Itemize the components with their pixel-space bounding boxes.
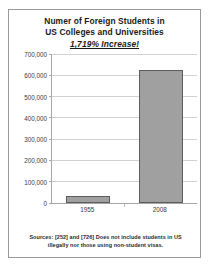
gridline: [52, 54, 197, 55]
y-axis-tick-label: 600,000: [24, 72, 47, 79]
y-axis-tick-label: 300,000: [24, 136, 47, 143]
chart-figure: Numer of Foreign Students in US Colleges…: [0, 0, 209, 272]
footnote-line-2: illegally nor those using non-student vi…: [15, 241, 196, 249]
y-axis-tick-label: 500,000: [24, 93, 47, 100]
bar-2008: [139, 70, 183, 203]
chart-panel: Numer of Foreign Students in US Colleges…: [8, 9, 201, 258]
y-axis-tickmark: [49, 75, 52, 76]
chart-title-line-2: US Colleges and Universities: [9, 27, 200, 38]
chart-subtitle-increase: 1,719% Increase!: [9, 38, 200, 50]
x-axis-tick-labels: 19552008: [51, 206, 197, 218]
footnote-line-1: Sources: [252] and [726] Does not includ…: [15, 233, 196, 241]
chart-title-line-1: Numer of Foreign Students in: [9, 16, 200, 27]
y-axis-tick-label: 700,000: [24, 51, 47, 58]
y-axis-tickmark: [49, 181, 52, 182]
chart-title: Numer of Foreign Students in US Colleges…: [9, 16, 200, 50]
y-axis-tickmark: [49, 117, 52, 118]
y-axis-tick-label: 0: [43, 200, 47, 207]
y-axis-tickmark: [49, 139, 52, 140]
y-axis-tickmark: [49, 160, 52, 161]
plot-canvas: [51, 54, 197, 203]
y-axis-tick-label: 100,000: [24, 178, 47, 185]
x-axis-tick-label: 1955: [80, 206, 94, 213]
x-axis-tick-label: 2008: [153, 206, 167, 213]
y-axis-tickmark: [49, 203, 52, 204]
y-axis-tick-labels: 0100,000200,000300,000400,000500,000600,…: [9, 54, 49, 203]
y-axis-tick-label: 400,000: [24, 114, 47, 121]
y-axis-tickmark: [49, 54, 52, 55]
y-axis-tick-label: 200,000: [24, 157, 47, 164]
bar-1955: [66, 196, 110, 203]
x-axis-divider: [124, 204, 125, 207]
plot-area: 0100,000200,000300,000400,000500,000600,…: [9, 54, 202, 224]
chart-footnote: Sources: [252] and [726] Does not includ…: [15, 233, 196, 249]
y-axis-tickmark: [49, 96, 52, 97]
